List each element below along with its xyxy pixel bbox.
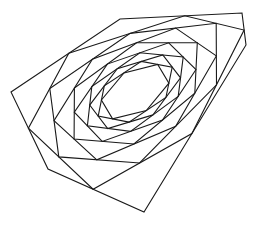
polygon-layers [11,13,246,212]
polygon-level-3 [54,28,216,160]
polygon-level-6 [87,53,183,132]
nested-polygon-diagram [0,0,260,226]
polygon-level-0 [11,13,246,212]
